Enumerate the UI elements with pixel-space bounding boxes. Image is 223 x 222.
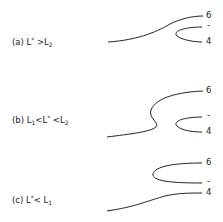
panel-c-label-dash: -	[207, 176, 210, 186]
relation-text: <L	[50, 115, 65, 125]
panel-c-main-curve	[107, 193, 202, 211]
panel-b-condition-label: (b) L1<L* <L2	[12, 114, 69, 126]
panel-c-label-6: 6	[206, 157, 211, 167]
subscript: 2	[65, 119, 69, 126]
panel-a-loop-curve	[176, 27, 202, 42]
label-text: (a) L	[12, 37, 31, 47]
subscript: 2	[49, 41, 53, 48]
label-text: (c) L	[12, 195, 31, 205]
panel-b-label-dash: -	[207, 110, 210, 120]
panel-a-label-dash: -	[207, 20, 210, 30]
panel-c-condition-label: (c) L*< L1	[12, 194, 52, 206]
subscript: 1	[48, 199, 52, 206]
panel-b-loop-curve	[176, 117, 202, 132]
relation-text: <L	[35, 115, 47, 125]
panel-a-label-6: 6	[206, 10, 211, 20]
curves-canvas	[0, 0, 223, 222]
panel-a-label-4: 4	[206, 36, 211, 46]
panel-b-label-6: 6	[206, 85, 211, 95]
panel-a-condition-label: (a) L* >L2	[12, 36, 53, 48]
panel-c-loop-curve	[153, 163, 202, 183]
panel-c-label-4: 4	[206, 187, 211, 197]
relation-text: >L	[34, 37, 49, 47]
panel-a-main-curve	[108, 16, 203, 42]
label-text: (b) L	[12, 115, 31, 125]
panel-b-label-4: 4	[206, 126, 211, 136]
panel-b-s-curve	[107, 91, 203, 137]
relation-text: < L	[34, 195, 49, 205]
